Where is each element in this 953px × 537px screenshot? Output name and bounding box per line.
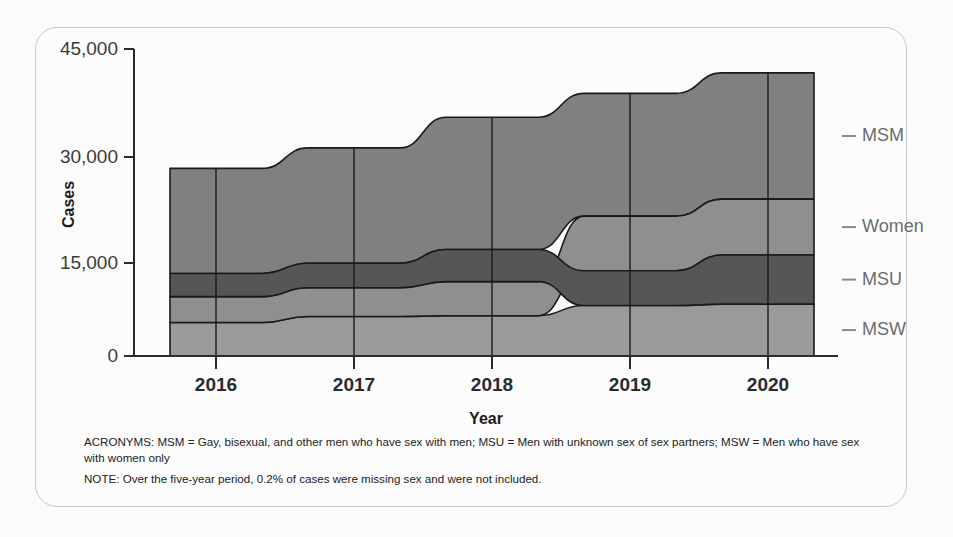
- x-tick-label-2019: 2019: [590, 374, 670, 396]
- x-axis-title: Year: [396, 410, 576, 428]
- y-tick-label-30000: 30,000: [26, 146, 118, 168]
- series-label-msm: MSM: [862, 125, 904, 146]
- x-tick-label-2020: 2020: [728, 374, 808, 396]
- y-tick-label-45000: 45,000: [26, 38, 118, 60]
- chart-card: 45,000 30,000 15,000 0 2016 2017 2018 20…: [35, 27, 907, 507]
- x-tick-marks: [216, 356, 768, 369]
- x-tick-label-2018: 2018: [452, 374, 532, 396]
- series-label-msu: MSU: [862, 269, 902, 290]
- series-leader-lines: [842, 136, 856, 330]
- y-axis-title: Cases: [60, 181, 78, 228]
- y-tick-label-15000: 15,000: [26, 252, 118, 274]
- series-label-msw: MSW: [862, 319, 906, 340]
- plot-area: 45,000 30,000 15,000 0 2016 2017 2018 20…: [36, 28, 908, 508]
- series-label-women: Women: [862, 216, 924, 237]
- y-tick-label-0: 0: [26, 345, 118, 367]
- footnote-note: NOTE: Over the five-year period, 0.2% of…: [84, 471, 874, 487]
- x-tick-label-2017: 2017: [314, 374, 394, 396]
- x-tick-label-2016: 2016: [176, 374, 256, 396]
- screenshot-root: 45,000 30,000 15,000 0 2016 2017 2018 20…: [0, 0, 953, 537]
- footnote-acronyms: ACRONYMS: MSM = Gay, bisexual, and other…: [84, 434, 874, 467]
- y-tick-marks: [124, 49, 134, 356]
